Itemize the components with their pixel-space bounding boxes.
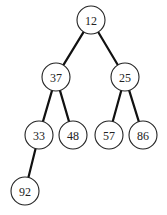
tree-node: 57	[95, 121, 123, 149]
node-label: 57	[103, 129, 115, 143]
node-label: 37	[50, 71, 62, 85]
tree-nodes: 1237253348578692	[11, 6, 157, 205]
node-label: 92	[19, 185, 31, 199]
binary-tree-diagram: 1237253348578692	[0, 0, 167, 215]
tree-node: 92	[11, 177, 39, 205]
tree-node: 37	[42, 63, 70, 91]
node-label: 48	[67, 129, 79, 143]
tree-edge-12-37	[63, 32, 83, 65]
tree-node: 33	[25, 121, 53, 149]
tree-edge-25-57	[113, 91, 122, 122]
tree-node: 48	[59, 121, 87, 149]
node-label: 12	[85, 14, 97, 28]
tree-node: 86	[129, 121, 157, 149]
tree-edge-37-48	[60, 90, 69, 121]
tree-edge-33-92	[28, 149, 35, 178]
tree-edges	[28, 32, 138, 177]
node-label: 33	[33, 129, 45, 143]
node-label: 25	[119, 71, 131, 85]
tree-node: 12	[77, 6, 105, 34]
tree-edge-12-25	[98, 32, 118, 65]
node-label: 86	[137, 129, 149, 143]
tree-node: 25	[111, 63, 139, 91]
tree-edge-25-86	[129, 90, 139, 121]
tree-edge-37-33	[43, 90, 52, 121]
